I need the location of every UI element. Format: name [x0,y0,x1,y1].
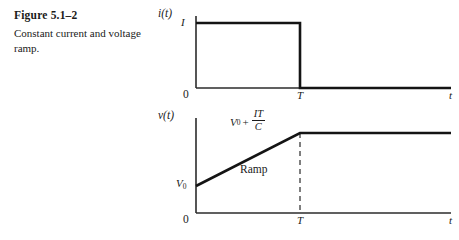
current-time-axis-label: t [449,90,452,101]
current-plot-panel: i(t) I 0 T t [150,0,459,105]
figure-container: Figure 5.1–2 Constant current and voltag… [0,0,459,240]
current-plot-svg [150,0,459,105]
voltage-initial-subscript: 0 [183,182,187,191]
formula-numerator: IT [252,109,265,120]
ramp-annotation-label: Ramp [240,164,267,176]
current-time-T-label: T [297,90,303,101]
formula-lead-symbol: V [230,117,237,128]
current-axis-function-label: i(t) [158,8,172,20]
formula-plus-operator: + [242,117,248,128]
figure-caption: Figure 5.1–2 Constant current and voltag… [14,8,144,57]
voltage-origin-label: 0 [183,214,189,226]
figure-caption-title: Figure 5.1–2 [14,8,144,24]
voltage-initial-symbol: V [176,177,183,189]
formula-fraction: IT C [252,109,265,132]
formula-denominator: C [252,120,265,132]
voltage-time-axis-label: t [449,215,452,226]
figure-caption-text: Constant current and voltage ramp. [14,26,144,57]
voltage-plot-svg [150,102,459,240]
current-amplitude-label: I [181,17,185,28]
voltage-time-T-label: T [297,215,303,226]
voltage-final-formula: V0 + IT C [230,111,265,134]
current-origin-label: 0 [183,89,189,101]
voltage-ramp-curve [196,133,451,186]
voltage-axis-function-label: v(t) [158,110,174,122]
voltage-initial-value-label: V0 [176,178,186,190]
formula-lead-subscript: 0 [237,119,241,126]
voltage-plot-panel: v(t) V0 Ramp V0 + IT C 0 T t [150,102,459,240]
current-pulse-curve [196,23,451,88]
